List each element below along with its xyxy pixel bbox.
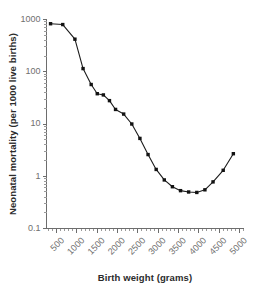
- data-point-marker: [122, 112, 125, 115]
- data-point-marker: [195, 191, 198, 194]
- data-point-marker: [49, 22, 52, 25]
- y-tick-label: 1000: [20, 14, 40, 24]
- x-tick-label: 2500: [126, 235, 147, 256]
- x-axis-ticks: [49, 229, 244, 233]
- series-line-neonatal-mortality: [51, 24, 234, 193]
- x-axis-title: Birth weight (grams): [98, 272, 192, 283]
- data-point-marker: [89, 83, 92, 86]
- y-tick-label: 10: [30, 118, 40, 128]
- data-series-group: [49, 22, 235, 194]
- neonatal-mortality-chart: 0.11101001000 50010001500200025003000350…: [0, 0, 256, 295]
- data-point-marker: [187, 190, 190, 193]
- y-axis-title: Neonatal mortality (per 1000 live births…: [7, 33, 18, 215]
- data-point-marker: [232, 152, 235, 155]
- x-tick-label: 4000: [187, 235, 208, 256]
- x-tick-label: 500: [48, 235, 66, 253]
- x-tick-label: 2000: [106, 235, 127, 256]
- data-point-marker: [81, 67, 84, 70]
- data-point-marker: [61, 23, 64, 26]
- data-point-marker: [130, 122, 133, 125]
- data-point-marker: [73, 37, 76, 40]
- data-point-marker: [171, 185, 174, 188]
- x-tick-label: 5000: [228, 235, 249, 256]
- chart-figure: 0.11101001000 50010001500200025003000350…: [0, 0, 256, 295]
- data-point-marker: [108, 99, 111, 102]
- x-axis: 500100015002000250030003500400045005000: [47, 229, 249, 257]
- data-point-marker: [221, 169, 224, 172]
- data-point-marker: [138, 137, 141, 140]
- data-point-marker: [114, 108, 117, 111]
- y-axis: 0.11101001000: [20, 14, 46, 233]
- data-point-marker: [203, 188, 206, 191]
- x-tick-label: 1000: [65, 235, 86, 256]
- data-point-marker: [211, 180, 214, 183]
- y-tick-label: 0.1: [28, 223, 41, 233]
- data-point-marker: [179, 189, 182, 192]
- data-point-marker: [146, 153, 149, 156]
- x-tick-label: 1500: [85, 235, 106, 256]
- y-tick-label: 100: [25, 66, 40, 76]
- data-point-marker: [163, 178, 166, 181]
- data-point-marker: [102, 93, 105, 96]
- x-tick-label: 4500: [207, 235, 228, 256]
- y-axis-tick-labels: 0.11101001000: [20, 14, 40, 233]
- x-axis-tick-labels: 500100015002000250030003500400045005000: [48, 235, 248, 256]
- data-point-marker: [154, 168, 157, 171]
- x-tick-label: 3500: [167, 235, 188, 256]
- data-point-marker: [96, 92, 99, 95]
- y-tick-label: 1: [35, 171, 40, 181]
- y-axis-ticks: [43, 20, 47, 229]
- x-tick-label: 3000: [146, 235, 167, 256]
